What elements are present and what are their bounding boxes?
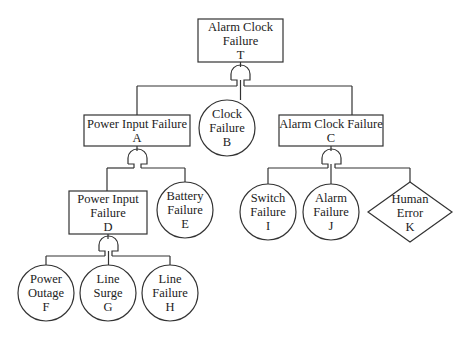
- fault-tree-diagram: Alarm Clock Failure T Power Input Failur…: [0, 0, 471, 346]
- node-D-line-3: D: [77, 220, 138, 234]
- node-K-label: Human Error K: [392, 192, 429, 234]
- node-T-label: Alarm Clock Failure T: [208, 20, 273, 62]
- node-I-label: Switch Failure I: [250, 191, 285, 233]
- node-T-line-1: Alarm Clock: [208, 20, 273, 34]
- node-H-label: Line Failure H: [152, 272, 187, 314]
- node-D-label: Power Input Failure D: [77, 192, 138, 234]
- node-I-line-1: Switch: [250, 191, 285, 205]
- node-B-label: Clock Failure B: [209, 107, 244, 149]
- node-F-label: Power Outage F: [28, 272, 64, 314]
- node-J-line-3: J: [313, 219, 348, 233]
- node-G-line-2: Surge: [94, 286, 123, 300]
- gate-A-icon: [128, 149, 147, 168]
- node-F-line-1: Power: [28, 272, 64, 286]
- node-B-line-2: Failure: [209, 121, 244, 135]
- node-K-line-1: Human: [392, 192, 429, 206]
- node-T-line-3: T: [208, 48, 273, 62]
- node-G-label: Line Surge G: [94, 272, 123, 314]
- node-J-label: Alarm Failure J: [313, 191, 348, 233]
- node-E-line-1: Battery: [167, 189, 204, 203]
- node-C-line-1: Alarm Clock Failure: [279, 117, 382, 131]
- node-A-line-1: Power Input Failure: [87, 117, 187, 131]
- node-T-line-2: Failure: [208, 34, 273, 48]
- node-H-line-1: Line: [152, 272, 187, 286]
- node-A-line-2: A: [87, 131, 187, 145]
- node-K-line-3: K: [392, 220, 429, 234]
- node-J-line-2: Failure: [313, 205, 348, 219]
- node-I-line-3: I: [250, 219, 285, 233]
- node-B-line-3: B: [209, 135, 244, 149]
- node-C-label: Alarm Clock Failure C: [279, 117, 382, 145]
- node-E-label: Battery Failure E: [167, 189, 204, 231]
- node-J-line-1: Alarm: [313, 191, 348, 205]
- node-H-line-3: H: [152, 300, 187, 314]
- node-D-line-2: Failure: [77, 206, 138, 220]
- node-E-line-2: Failure: [167, 203, 204, 217]
- node-F-line-3: F: [28, 300, 64, 314]
- node-B-line-1: Clock: [209, 107, 244, 121]
- node-F-line-2: Outage: [28, 286, 64, 300]
- node-E-line-3: E: [167, 217, 204, 231]
- node-A-label: Power Input Failure A: [87, 117, 187, 145]
- node-G-line-1: Line: [94, 272, 123, 286]
- node-G-line-3: G: [94, 300, 123, 314]
- node-K-line-2: Error: [392, 206, 429, 220]
- node-D-line-1: Power Input: [77, 192, 138, 206]
- node-H-line-2: Failure: [152, 286, 187, 300]
- node-I-line-2: Failure: [250, 205, 285, 219]
- node-C-line-2: C: [279, 131, 382, 145]
